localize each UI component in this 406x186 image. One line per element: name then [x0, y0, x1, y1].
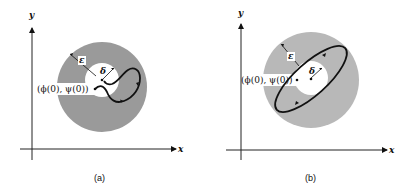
- epsilon-label: ε: [288, 51, 294, 61]
- y-axis-label: y: [237, 8, 244, 18]
- caption-b: (b): [305, 173, 316, 183]
- stability-diagram: y x ε δ (ϕ(0), ψ(0)) (a) y x: [0, 0, 406, 186]
- delta-label: δ: [308, 66, 315, 76]
- delta-label: δ: [99, 66, 106, 76]
- x-axis-label: x: [388, 145, 395, 155]
- initial-point-label: (ϕ(0), ψ(0)): [37, 84, 88, 94]
- y-axis-label: y: [28, 10, 35, 20]
- equilibrium-point: [101, 79, 104, 82]
- panel-b: y x ε δ (ϕ(0), ψ(0)) (b): [226, 8, 395, 183]
- x-axis-label: x: [177, 144, 184, 154]
- panel-a: y x ε δ (ϕ(0), ψ(0)) (a): [20, 10, 184, 183]
- caption-a: (a): [94, 173, 105, 183]
- epsilon-label: ε: [79, 55, 85, 65]
- initial-point: [296, 79, 299, 82]
- equilibrium-point: [310, 78, 313, 81]
